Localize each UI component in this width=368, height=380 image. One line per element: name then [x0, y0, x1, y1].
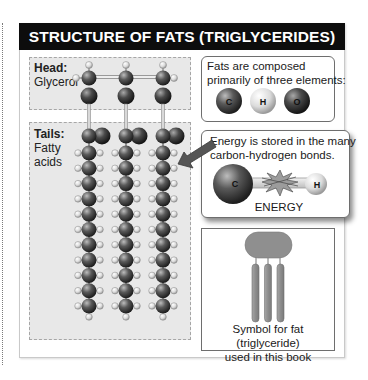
diagram-graphics: C H O C H ENERGY: [0, 0, 368, 380]
svg-text:H: H: [314, 180, 321, 190]
fatty-acid-chain: [75, 128, 111, 321]
svg-text:C: C: [226, 97, 233, 107]
ester-bonds: [88, 104, 165, 130]
arrow-icon: [178, 140, 216, 168]
oxygen-atom-icon: O: [284, 88, 310, 114]
hydrogen-atom-icon: H: [250, 88, 276, 114]
energy-hydrogen-atom: H: [305, 173, 327, 195]
glycerol-oxygen-1: [81, 88, 98, 105]
glycerol-carbon-3: [156, 62, 178, 86]
glycerol-oxygen-2: [118, 88, 135, 105]
energy-carbon-atom: C: [213, 164, 253, 204]
fatty-acid-chains: [75, 128, 185, 321]
carbon-hydrogen-bond-diagram: C H ENERGY: [213, 164, 327, 213]
fatty-acid-chain: [149, 128, 185, 321]
fat-symbol-icon: [245, 232, 292, 322]
energy-burst-icon: [262, 170, 298, 196]
glycerol-carbon-2: [119, 62, 134, 86]
element-atoms: C H O: [216, 88, 310, 114]
energy-caption: ENERGY: [255, 201, 304, 213]
svg-text:H: H: [260, 97, 267, 107]
carbon-atom-icon: C: [216, 88, 242, 114]
glycerol-oxygen-3: [155, 88, 172, 105]
svg-text:O: O: [293, 97, 300, 107]
glycerol-carbon-1: [73, 62, 97, 86]
svg-text:C: C: [232, 179, 239, 189]
fatty-acid-chain: [112, 128, 148, 321]
glycerol-molecule: [73, 62, 178, 105]
